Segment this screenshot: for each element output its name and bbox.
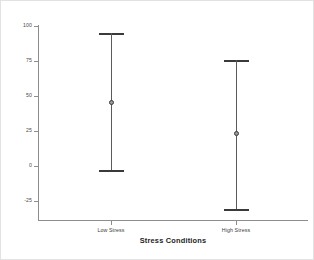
y-tick-0: 0 [34, 166, 38, 167]
y-tick-label-0: 0 [29, 161, 32, 170]
y-tick-label-75: 75 [26, 56, 32, 65]
y-tick-label-neg25: -25 [24, 196, 32, 205]
y-tick-label-50: 50 [26, 91, 32, 100]
plot-area: 100 75 50 25 0 -25 Low Stress High Stres… [38, 25, 308, 221]
y-tick-label-100: 100 [23, 21, 32, 30]
x-tick-high-stress [236, 221, 237, 225]
y-tick-50: 50 [34, 96, 38, 97]
chart-page: Mean +- 2 SD of Percent of Time Talking … [0, 0, 314, 260]
x-tick-low-stress [111, 221, 112, 225]
y-tick-neg25: -25 [34, 201, 38, 202]
y-tick-100: 100 [34, 26, 38, 27]
y-tick-label-25: 25 [26, 126, 32, 135]
y-axis-line [38, 25, 39, 221]
y-tick-75: 75 [34, 61, 38, 62]
errorbar-lower-cap [99, 170, 124, 172]
errorbar-mean-marker [234, 131, 239, 136]
y-tick-25: 25 [34, 131, 38, 132]
errorbar-mean-marker [109, 100, 114, 105]
x-tick-label-low-stress: Low Stress [97, 227, 124, 233]
x-tick-label-high-stress: High Stress [222, 227, 250, 233]
x-axis-line [38, 220, 308, 221]
errorbar-lower-cap [224, 209, 249, 211]
x-axis-title: Stress Conditions [38, 236, 308, 245]
